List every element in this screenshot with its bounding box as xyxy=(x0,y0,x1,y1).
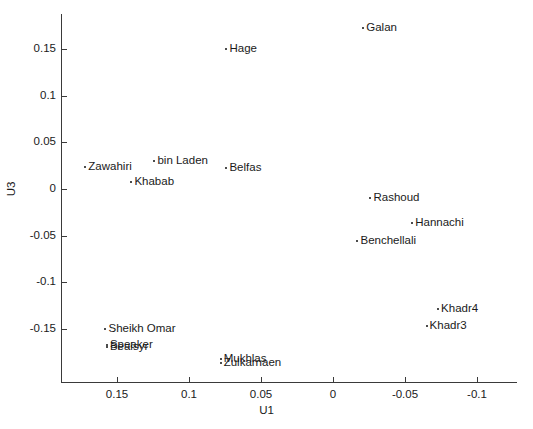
x-axis-tick-label: 0.05 xyxy=(236,388,286,400)
data-point xyxy=(104,328,106,330)
y-axis-tick xyxy=(62,142,67,143)
data-point-label: Sheikh Omar xyxy=(108,323,175,335)
y-axis-tick xyxy=(62,282,67,283)
data-point xyxy=(84,166,86,168)
data-point-label: Khadr4 xyxy=(441,303,478,315)
y-axis-tick-label: 0.05 xyxy=(16,135,56,147)
x-axis-tick xyxy=(477,377,478,382)
x-axis-tick xyxy=(189,377,190,382)
y-axis-tick-label: 0.15 xyxy=(16,42,56,54)
data-point xyxy=(356,240,358,242)
data-point xyxy=(106,346,108,348)
data-point-label: Bealsyr xyxy=(110,341,148,353)
data-point-label: Khadr3 xyxy=(430,320,467,332)
data-point xyxy=(426,325,428,327)
data-point xyxy=(369,197,371,199)
x-axis-tick xyxy=(117,377,118,382)
y-axis-label: U3 xyxy=(5,169,17,209)
y-axis-tick-label: -0.1 xyxy=(16,275,56,287)
data-point xyxy=(362,27,364,29)
data-point-label: Khabab xyxy=(134,176,174,188)
x-axis-line xyxy=(61,382,517,383)
data-point-label: Zawahiri xyxy=(88,161,131,173)
y-axis-tick xyxy=(62,329,67,330)
y-axis-tick-label: -0.05 xyxy=(16,229,56,241)
data-point-label: bin Laden xyxy=(157,155,208,167)
y-axis-tick xyxy=(62,236,67,237)
data-point xyxy=(225,48,227,50)
y-axis-tick-label: -0.15 xyxy=(16,322,56,334)
data-point-label: Hannachi xyxy=(415,217,464,229)
y-axis-tick-label: 0.1 xyxy=(16,89,56,101)
scatter-plot-figure: 0.150.10.050-0.05-0.1-0.150.150.10.050-0… xyxy=(0,0,533,429)
x-axis-tick xyxy=(261,377,262,382)
data-point-label: Rashoud xyxy=(373,192,419,204)
data-point xyxy=(220,362,222,364)
data-point-label: Galan xyxy=(366,22,397,34)
x-axis-tick-label: -0.05 xyxy=(380,388,430,400)
data-point-label: Zulkarnaen xyxy=(224,357,282,369)
data-point xyxy=(411,222,413,224)
y-axis-tick xyxy=(62,96,67,97)
y-axis-line xyxy=(61,14,62,383)
y-axis-tick xyxy=(62,189,67,190)
x-axis-tick-label: -0.1 xyxy=(452,388,502,400)
data-point-label: Benchellali xyxy=(360,235,416,247)
data-point xyxy=(220,358,222,360)
y-axis-tick-label: 0 xyxy=(16,182,56,194)
x-axis-tick-label: 0 xyxy=(308,388,358,400)
data-point xyxy=(153,160,155,162)
data-point xyxy=(225,167,227,169)
x-axis-tick-label: 0.1 xyxy=(164,388,214,400)
x-axis-tick xyxy=(333,377,334,382)
x-axis-tick xyxy=(405,377,406,382)
y-axis-tick xyxy=(62,49,67,50)
data-point xyxy=(437,308,439,310)
x-axis-tick-label: 0.15 xyxy=(92,388,142,400)
x-axis-label: U1 xyxy=(0,404,533,416)
data-point-label: Hage xyxy=(229,43,257,55)
data-point-label: Belfas xyxy=(229,162,261,174)
data-point xyxy=(130,181,132,183)
